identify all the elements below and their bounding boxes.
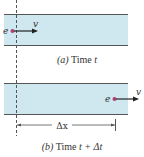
velocity-label-a: v bbox=[33, 19, 38, 29]
electron-label-a: e bbox=[3, 26, 8, 36]
wire-panel-a bbox=[4, 14, 128, 46]
caption-a: (a) Time t bbox=[57, 54, 97, 66]
electron-drift-diagram: e v (a) Time t e v Δx (b) Time t + Δt bbox=[0, 0, 144, 157]
dimension-arrow-right-icon bbox=[111, 124, 115, 127]
velocity-arrow-icon bbox=[133, 97, 139, 102]
caption-b: (b) Time t + Δt bbox=[42, 141, 103, 153]
dimension-arrow-left-icon bbox=[17, 124, 21, 127]
velocity-label-b: v bbox=[136, 87, 141, 97]
displacement-label: Δx bbox=[56, 121, 68, 131]
electron-label-b: e bbox=[105, 94, 110, 104]
